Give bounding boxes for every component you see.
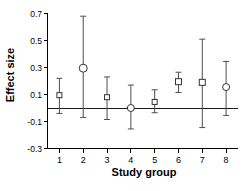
x-axis-tick-label: 4 — [128, 155, 133, 165]
x-axis-tick-label: 5 — [152, 155, 157, 165]
y-axis-tick-label: 0.5 — [30, 36, 42, 46]
x-axis-tick-label: 6 — [176, 155, 181, 165]
x-axis-tick-label: 3 — [105, 155, 110, 165]
x-axis-tick-label: 1 — [57, 155, 62, 165]
y-axis-tick-label: 0.3 — [30, 63, 42, 73]
x-axis-tick-label: 2 — [81, 155, 86, 165]
y-axis-tick-label: -0.3 — [27, 144, 42, 154]
x-axis-tick-marks — [59, 149, 226, 153]
data-point-marker — [199, 79, 205, 85]
data-point-marker — [223, 84, 230, 91]
y-axis-tick-labels: 0.70.50.30.1-0.1-0.3 — [27, 9, 42, 154]
x-axis-tick-label: 7 — [200, 155, 205, 165]
effect-size-forest-plot: Effect size 0.70.50.30.1-0.1-0.3 1234567… — [0, 0, 250, 191]
x-axis-tick-label: 8 — [224, 155, 229, 165]
data-point-marker — [79, 64, 87, 72]
y-axis-tick-label: -0.1 — [27, 117, 42, 127]
data-point-marker — [57, 93, 62, 98]
plot-canvas: 0.70.50.30.1-0.1-0.3 12345678 — [0, 0, 250, 191]
data-point-marker — [105, 95, 110, 100]
x-axis-title: Study group — [46, 166, 242, 178]
data-point-marker — [152, 99, 157, 104]
x-axis-tick-labels: 12345678 — [57, 155, 229, 165]
y-axis-tick-label: 0.7 — [30, 9, 42, 19]
data-point-marker — [175, 79, 181, 85]
data-point-marker — [127, 105, 134, 112]
y-axis-tick-marks — [44, 14, 48, 149]
axis-lines — [48, 14, 239, 149]
y-axis-tick-label: 0.1 — [30, 90, 42, 100]
